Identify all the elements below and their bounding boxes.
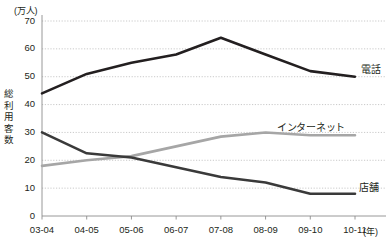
x-axis-unit-label: (年) xyxy=(363,225,378,238)
x-axis-tick-label: 04-05 xyxy=(65,224,109,235)
x-axis-tick-label: 06-07 xyxy=(154,224,198,235)
series-line-1 xyxy=(42,132,355,165)
y-axis-tick-label: 10 xyxy=(11,182,35,193)
series-label-1: インターネット xyxy=(277,119,345,134)
series-line-0 xyxy=(42,38,355,94)
y-axis-tick-label: 70 xyxy=(11,15,35,26)
y-axis-tick-label: 0 xyxy=(11,210,35,221)
y-axis-tick-label: 30 xyxy=(11,126,35,137)
y-axis-tick-label: 50 xyxy=(11,70,35,81)
x-axis-tick-label: 05-06 xyxy=(109,224,153,235)
series-label-0: 電話 xyxy=(361,61,380,76)
x-axis-tick-label: 08-09 xyxy=(244,224,288,235)
series-label-2: 店舗 xyxy=(359,179,378,194)
y-axis-tick-label: 40 xyxy=(11,98,35,109)
y-axis-tick-label: 60 xyxy=(11,42,35,53)
x-axis-tick-label: 09-10 xyxy=(288,224,332,235)
x-axis-tick-label: 03-04 xyxy=(20,224,64,235)
chart-container: (万人) 総 利 用 客 数 010203040506070 03-0404-0… xyxy=(0,0,392,243)
y-axis-tick-label: 20 xyxy=(11,154,35,165)
x-axis-tick-label: 07-08 xyxy=(199,224,243,235)
